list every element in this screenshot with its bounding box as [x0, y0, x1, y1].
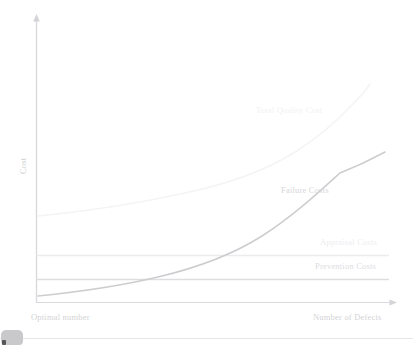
series-label-prevention-costs: Prevention Costs [315, 262, 376, 271]
failure-costs-curve [38, 152, 385, 296]
total-quality-cost-curve [38, 84, 370, 216]
chart-canvas [0, 0, 413, 346]
series-label-appraisal-costs: Appraisal Costs [320, 238, 377, 247]
series-label-failure-costs: Failure Costs [281, 186, 329, 195]
y-axis-arrowhead [33, 14, 40, 22]
quality-cost-chart: Cost Optimal number Number of Defects To… [0, 0, 413, 346]
x-axis-right-label: Number of Defects [313, 313, 382, 322]
series-label-total-quality-cost: Total Quality Cost [256, 106, 322, 115]
bottom-divider [0, 338, 413, 339]
corner-badge-dot [2, 340, 6, 345]
x-axis-arrowhead [390, 299, 398, 305]
x-axis-left-label: Optimal number [31, 313, 90, 322]
y-axis-title: Cost [19, 158, 28, 174]
